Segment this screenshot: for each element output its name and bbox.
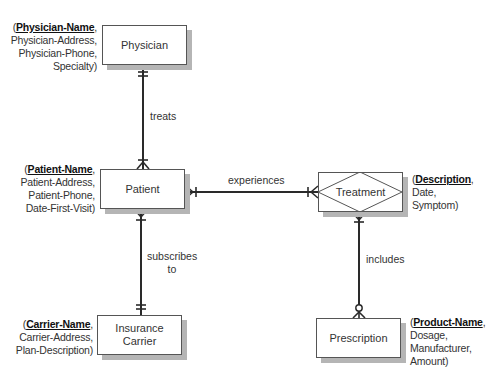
attribute: Physician-Phone, <box>0 47 97 60</box>
zero-circle <box>356 305 362 311</box>
treats-line <box>137 66 149 169</box>
entity-name: Prescription <box>329 332 387 345</box>
entity-patient[interactable]: Patient <box>100 169 185 209</box>
primary-key: Product-Name <box>413 316 482 328</box>
primary-key: Physician-Name <box>16 21 94 33</box>
physician-attributes: (Physician-Name, Physician-Address, Phys… <box>0 21 97 73</box>
insurance-carrier-attributes: (Carrier-Name, Carrier-Address, Plan-Des… <box>0 318 93 357</box>
attribute: Carrier-Address, <box>0 331 93 344</box>
entity-treatment[interactable]: Treatment <box>318 172 403 212</box>
relationship-label-treats: treats <box>150 110 176 123</box>
entity-physician[interactable]: Physician <box>102 25 187 65</box>
entity-name-line1: Insurance <box>115 322 163 335</box>
primary-key: Patient-Name <box>28 163 93 175</box>
entity-name: Patient <box>125 183 159 196</box>
patient-attributes: (Patient-Name, Patient-Address, Patient-… <box>0 163 95 215</box>
entity-prescription[interactable]: Prescription <box>316 318 401 358</box>
attribute: Plan-Description) <box>0 344 93 357</box>
relationship-label-includes: includes <box>366 253 405 266</box>
subscribes-to-line <box>135 210 147 315</box>
attribute: Date, <box>412 186 474 199</box>
primary-key: Description <box>415 173 471 185</box>
attribute: Symptom) <box>412 199 474 212</box>
treatment-attributes: (Description, Date, Symptom) <box>412 173 474 212</box>
attribute: Amount) <box>410 355 485 368</box>
relationship-label-experiences: experiences <box>228 174 285 187</box>
entity-name-line2: Carrier <box>123 335 157 348</box>
attribute: Patient-Phone, <box>0 189 95 202</box>
relationship-label-subscribes-to: subscribes to <box>147 250 197 276</box>
attribute: Manufacturer, <box>410 342 485 355</box>
attribute: Specialty) <box>0 60 97 73</box>
entity-name: Treatment <box>336 186 386 199</box>
attribute: Physician-Address, <box>0 34 97 47</box>
includes-line <box>353 213 365 318</box>
experiences-line <box>186 186 318 198</box>
entity-insurance-carrier[interactable]: Insurance Carrier <box>97 315 182 355</box>
prescription-attributes: (Product-Name, Dosage, Manufacturer, Amo… <box>410 316 485 368</box>
attribute: Dosage, <box>410 329 485 342</box>
attribute: Date-First-Visit) <box>0 202 95 215</box>
attribute: Patient-Address, <box>0 176 95 189</box>
primary-key: Carrier-Name <box>26 318 90 330</box>
entity-name: Physician <box>121 39 168 52</box>
